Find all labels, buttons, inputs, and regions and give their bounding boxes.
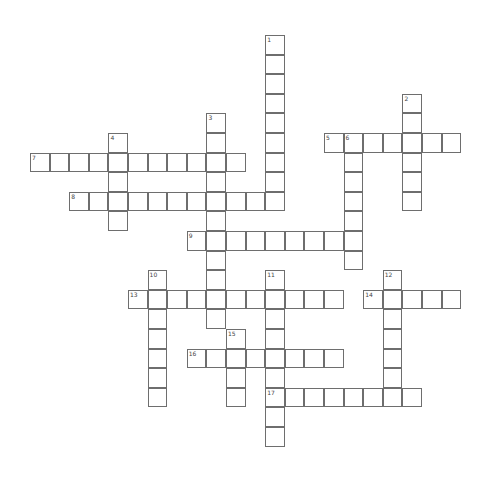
crossword-cell[interactable]: [265, 192, 285, 212]
crossword-cell[interactable]: 16: [187, 349, 207, 369]
crossword-cell[interactable]: [344, 172, 364, 192]
crossword-cell[interactable]: [265, 231, 285, 251]
crossword-cell[interactable]: [187, 153, 207, 173]
crossword-cell[interactable]: [402, 133, 422, 153]
crossword-cell[interactable]: [246, 290, 266, 310]
crossword-cell[interactable]: [265, 407, 285, 427]
crossword-cell[interactable]: [285, 231, 305, 251]
crossword-cell[interactable]: [304, 388, 324, 408]
crossword-cell[interactable]: 5: [324, 133, 344, 153]
crossword-cell[interactable]: [324, 231, 344, 251]
crossword-cell[interactable]: [89, 153, 109, 173]
crossword-cell[interactable]: [265, 153, 285, 173]
crossword-cell[interactable]: [246, 231, 266, 251]
crossword-cell[interactable]: [246, 192, 266, 212]
crossword-cell[interactable]: [128, 153, 148, 173]
crossword-cell[interactable]: [206, 349, 226, 369]
crossword-cell[interactable]: [363, 388, 383, 408]
crossword-cell[interactable]: [89, 192, 109, 212]
crossword-cell[interactable]: [324, 290, 344, 310]
crossword-cell[interactable]: 9: [187, 231, 207, 251]
crossword-cell[interactable]: [108, 153, 128, 173]
crossword-cell[interactable]: [383, 290, 403, 310]
crossword-cell[interactable]: [206, 153, 226, 173]
crossword-cell[interactable]: [363, 133, 383, 153]
crossword-cell[interactable]: [344, 251, 364, 271]
crossword-cell[interactable]: [285, 388, 305, 408]
crossword-cell[interactable]: [265, 74, 285, 94]
crossword-cell[interactable]: [265, 113, 285, 133]
crossword-cell[interactable]: [383, 133, 403, 153]
crossword-cell[interactable]: [344, 192, 364, 212]
crossword-cell[interactable]: [402, 113, 422, 133]
crossword-cell[interactable]: 11: [265, 270, 285, 290]
crossword-cell[interactable]: [69, 153, 89, 173]
crossword-cell[interactable]: [265, 368, 285, 388]
crossword-cell[interactable]: [285, 349, 305, 369]
crossword-cell[interactable]: [226, 153, 246, 173]
crossword-cell[interactable]: [304, 231, 324, 251]
crossword-cell[interactable]: [206, 192, 226, 212]
crossword-cell[interactable]: [344, 388, 364, 408]
crossword-cell[interactable]: [265, 94, 285, 114]
crossword-cell[interactable]: [402, 388, 422, 408]
crossword-cell[interactable]: [344, 153, 364, 173]
crossword-cell[interactable]: 12: [383, 270, 403, 290]
crossword-cell[interactable]: [226, 231, 246, 251]
crossword-cell[interactable]: [265, 172, 285, 192]
crossword-cell[interactable]: [442, 133, 462, 153]
crossword-cell[interactable]: [304, 290, 324, 310]
crossword-cell[interactable]: [206, 211, 226, 231]
crossword-cell[interactable]: 3: [206, 113, 226, 133]
crossword-cell[interactable]: 10: [148, 270, 168, 290]
crossword-cell[interactable]: [265, 133, 285, 153]
crossword-cell[interactable]: [206, 133, 226, 153]
crossword-cell[interactable]: [148, 329, 168, 349]
crossword-cell[interactable]: [226, 192, 246, 212]
crossword-cell[interactable]: [167, 153, 187, 173]
crossword-cell[interactable]: [324, 349, 344, 369]
crossword-cell[interactable]: 2: [402, 94, 422, 114]
crossword-cell[interactable]: [167, 290, 187, 310]
crossword-cell[interactable]: [383, 329, 403, 349]
crossword-cell[interactable]: [265, 55, 285, 75]
crossword-cell[interactable]: [206, 172, 226, 192]
crossword-cell[interactable]: [206, 231, 226, 251]
crossword-cell[interactable]: [108, 211, 128, 231]
crossword-cell[interactable]: 4: [108, 133, 128, 153]
crossword-cell[interactable]: [324, 388, 344, 408]
crossword-cell[interactable]: [206, 309, 226, 329]
crossword-cell[interactable]: 8: [69, 192, 89, 212]
crossword-cell[interactable]: [383, 309, 403, 329]
crossword-cell[interactable]: [148, 368, 168, 388]
crossword-cell[interactable]: [265, 349, 285, 369]
crossword-cell[interactable]: 17: [265, 388, 285, 408]
crossword-cell[interactable]: [265, 290, 285, 310]
crossword-cell[interactable]: [206, 290, 226, 310]
crossword-cell[interactable]: [128, 192, 148, 212]
crossword-cell[interactable]: [442, 290, 462, 310]
crossword-cell[interactable]: [304, 349, 324, 369]
crossword-cell[interactable]: [265, 309, 285, 329]
crossword-cell[interactable]: [383, 349, 403, 369]
crossword-cell[interactable]: 13: [128, 290, 148, 310]
crossword-cell[interactable]: 6: [344, 133, 364, 153]
crossword-cell[interactable]: 1: [265, 35, 285, 55]
crossword-cell[interactable]: [422, 133, 442, 153]
crossword-cell[interactable]: [344, 231, 364, 251]
crossword-cell[interactable]: [148, 349, 168, 369]
crossword-cell[interactable]: [206, 251, 226, 271]
crossword-cell[interactable]: [383, 368, 403, 388]
crossword-cell[interactable]: [344, 211, 364, 231]
crossword-cell[interactable]: [148, 153, 168, 173]
crossword-cell[interactable]: [383, 388, 403, 408]
crossword-cell[interactable]: [148, 309, 168, 329]
crossword-cell[interactable]: 14: [363, 290, 383, 310]
crossword-cell[interactable]: [246, 349, 266, 369]
crossword-cell[interactable]: [226, 368, 246, 388]
crossword-cell[interactable]: [187, 290, 207, 310]
crossword-cell[interactable]: [265, 427, 285, 447]
crossword-cell[interactable]: [402, 172, 422, 192]
crossword-cell[interactable]: [148, 388, 168, 408]
crossword-cell[interactable]: [187, 192, 207, 212]
